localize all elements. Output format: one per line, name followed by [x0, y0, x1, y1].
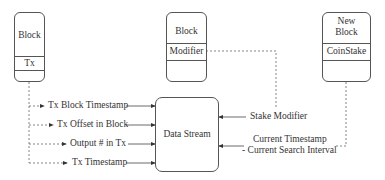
- block-modifier: Block Modifier: [166, 12, 207, 82]
- label-tx-offset-in-block: Tx Offset in Block: [57, 119, 128, 130]
- block-title-line1: New: [323, 16, 370, 27]
- label-stake-modifier: Stake Modifier: [250, 111, 307, 122]
- divider: [323, 43, 370, 44]
- label-current-timestamp: Current Timestamp: [253, 134, 327, 145]
- block-title-line2: Block: [323, 27, 370, 38]
- block-field: Tx: [15, 58, 44, 69]
- block-tx: Block Tx: [14, 12, 45, 82]
- data-stream-box: Data Stream: [155, 97, 219, 172]
- label-current-search-interval: - Current Search Interval: [242, 145, 337, 156]
- divider: [323, 60, 370, 61]
- label-tx-block-timestamp: Tx Block Timestamp: [48, 100, 128, 111]
- label-tx-timestamp: Tx Timestamp: [72, 157, 127, 168]
- label-output-in-tx: Output # in Tx: [70, 138, 126, 149]
- data-stream-label: Data Stream: [156, 129, 218, 140]
- divider: [167, 43, 206, 44]
- divider: [15, 70, 44, 71]
- divider: [167, 60, 206, 61]
- block-field: CoinStake: [323, 46, 370, 57]
- divider: [15, 56, 44, 57]
- block-field: Modifier: [167, 46, 206, 57]
- block-title: Block: [167, 26, 206, 37]
- block-new-coinstake: New Block CoinStake: [322, 12, 371, 82]
- block-title: Block: [15, 30, 44, 41]
